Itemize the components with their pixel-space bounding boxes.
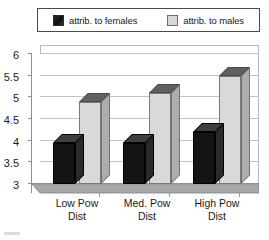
legend-label-females: attrib. to females: [69, 15, 137, 26]
y-axis-tick: [28, 75, 32, 76]
bar-front-face: [53, 143, 75, 184]
y-axis-tick-label: 6: [13, 49, 19, 61]
x-axis-label-line: Dist: [37, 210, 117, 223]
legend-swatch-females-icon: [53, 15, 64, 26]
x-axis-label-line: Dist: [177, 210, 257, 223]
legend-entry-males: attrib. to males: [167, 15, 244, 26]
x-axis-label-line: Dist: [107, 210, 187, 223]
legend-label-males: attrib. to males: [183, 15, 244, 26]
bar-females-3: [193, 132, 215, 184]
y-axis-tick: [28, 118, 32, 119]
bar-side-face: [101, 93, 110, 184]
x-axis-tick: [169, 193, 170, 197]
gridline: [40, 53, 259, 54]
legend-entry-females: attrib. to females: [53, 15, 137, 26]
bar-front-face: [193, 132, 215, 184]
y-axis-tick-label: 4: [13, 136, 19, 148]
x-axis-tick: [99, 193, 100, 197]
y-axis-tick-label: 3.5: [4, 157, 19, 169]
bar-chart-figure: attrib. to females attrib. to males 33.5…: [0, 0, 269, 240]
y-axis-tick-label: 5.5: [4, 71, 19, 83]
y-axis-tick-label: 5: [13, 92, 19, 104]
y-axis-tick-label: 3: [13, 179, 19, 191]
y-axis-tick: [28, 53, 32, 54]
x-axis-label-2: Med. PowDist: [107, 197, 187, 223]
x-axis-label-1: Low PowDist: [37, 197, 117, 223]
y-axis-line: [31, 53, 32, 193]
bar-females-2: [123, 143, 145, 184]
x-axis-label-line: Low Pow: [37, 197, 117, 210]
y-axis-tick: [28, 161, 32, 162]
x-axis-label-3: High PowDist: [177, 197, 257, 223]
bar-side-face: [215, 123, 224, 184]
x-axis-labels: Low PowDistMed. PowDistHigh PowDist: [31, 197, 259, 233]
bar-side-face: [171, 84, 180, 184]
y-axis-tick: [28, 140, 32, 141]
plot-side-wall: [31, 54, 41, 184]
y-axis-tick: [28, 183, 32, 184]
plot-area: [31, 45, 259, 194]
x-axis-label-line: Med. Pow: [107, 197, 187, 210]
y-axis-tick-label: 4.5: [4, 114, 19, 126]
plot-floor: [31, 183, 259, 194]
bar-front-face: [123, 143, 145, 184]
legend-swatch-males-icon: [167, 15, 178, 26]
chart-legend: attrib. to females attrib. to males: [37, 8, 260, 32]
bar-side-face: [241, 67, 250, 184]
x-axis-tick: [239, 193, 240, 197]
y-axis-tick: [28, 96, 32, 97]
x-axis-label-line: High Pow: [177, 197, 257, 210]
page-artifact: [4, 232, 20, 235]
bar-females-1: [53, 143, 75, 184]
